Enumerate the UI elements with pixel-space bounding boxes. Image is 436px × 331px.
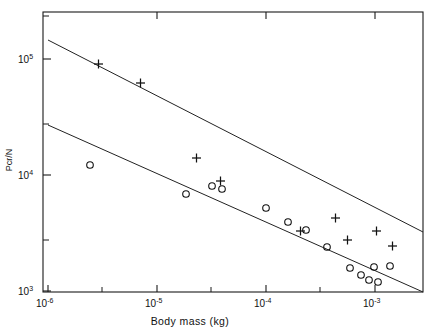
plus-marker	[216, 177, 225, 186]
x-axis-tick-labels: 10-6 10-5 10-4 10-3	[36, 297, 380, 309]
x-tick-label-1e-3: 10-3	[363, 297, 380, 309]
plot-frame	[43, 12, 423, 292]
upper-regression-line	[48, 40, 423, 232]
plus-marker-group	[94, 60, 397, 251]
circle-marker	[183, 191, 190, 198]
scatter-plot-svg: 105 104 103 10-6 10-5 10-4 10-3 Body mas…	[0, 0, 436, 331]
circle-marker	[366, 277, 373, 284]
circle-marker	[347, 265, 354, 272]
x-tick-label-1e-4: 10-4	[254, 297, 271, 309]
y-axis-major-ticks	[43, 59, 51, 291]
circle-marker	[371, 264, 378, 271]
circle-marker	[209, 183, 216, 190]
lower-regression-line	[48, 125, 423, 292]
circle-marker	[285, 219, 292, 226]
plus-marker	[331, 214, 340, 223]
y-tick-label-1e3: 103	[18, 285, 33, 297]
circle-marker	[87, 162, 94, 169]
fit-lines	[48, 40, 423, 292]
circle-marker	[387, 263, 394, 270]
y-tick-label-1e5: 105	[18, 53, 33, 65]
x-axis-minor-ticks-bottom	[102, 287, 320, 292]
circle-marker	[219, 186, 226, 193]
x-axis-major-ticks-top	[157, 12, 375, 19]
plot-frame-rect	[43, 12, 423, 292]
y-axis-title: Pcr/N	[4, 149, 14, 172]
plus-marker	[388, 242, 397, 251]
y-tick-label-1e4: 104	[18, 169, 33, 181]
plus-marker	[192, 154, 201, 163]
figure-container: 105 104 103 10-6 10-5 10-4 10-3 Body mas…	[0, 0, 436, 331]
x-tick-label-1e-6: 10-6	[36, 297, 53, 309]
y-axis-minor-ticks	[43, 16, 49, 240]
circle-marker	[358, 272, 365, 279]
circle-marker-group	[87, 162, 394, 286]
y-axis-tick-labels: 105 104 103	[18, 53, 33, 297]
plus-marker	[372, 227, 381, 236]
x-axis-title: Body mass (kg)	[151, 315, 230, 327]
circle-marker	[303, 227, 310, 234]
circle-marker	[263, 205, 270, 212]
x-tick-label-1e-5: 10-5	[145, 297, 162, 309]
circle-marker	[375, 279, 382, 286]
plus-marker	[343, 236, 352, 245]
